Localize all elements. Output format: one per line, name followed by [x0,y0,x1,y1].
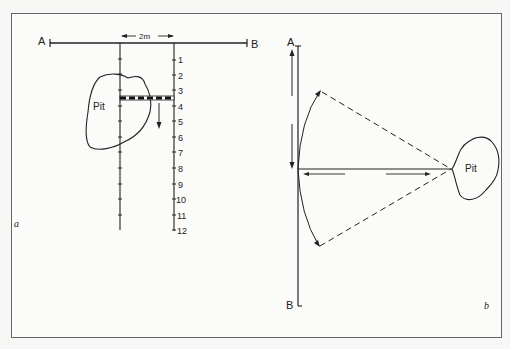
scale-number: 3 [178,86,183,96]
scale-number: 10 [176,195,186,205]
scale-number: 6 [178,133,183,143]
scale-number: 8 [178,164,183,174]
panel-a-label: a [14,218,19,229]
baseline-end-label: B [286,299,293,311]
baseline-start-label: A [38,35,46,47]
down-arrow [290,162,295,169]
up-arrow [290,49,295,56]
left-arrow [303,172,309,176]
baseline-end-label: B [251,38,258,50]
scale-number: 5 [178,117,183,127]
panel-b: A B Pit b [286,36,499,311]
right-arrow [425,172,431,176]
panel-b-label: b [484,300,489,311]
scale-number: 11 [177,211,186,221]
dashed-line-lower [320,169,451,246]
scale-number: 4 [178,102,183,112]
scale-number: 12 [177,226,187,236]
spacing-label: 2m [139,32,150,41]
scale-number: 2 [178,71,183,81]
scale-number: 7 [178,148,183,158]
baseline-start-label: A [287,36,295,48]
scale-number: 1 [178,55,183,65]
pit-label: Pit [93,101,105,112]
dashed-line-upper [322,92,451,169]
panel-a: A B 2m 1 2 3 [14,32,258,236]
pit-label: Pit [465,163,477,174]
scale-number: 9 [178,180,183,190]
diagram-canvas: A B 2m 1 2 3 [0,0,510,349]
